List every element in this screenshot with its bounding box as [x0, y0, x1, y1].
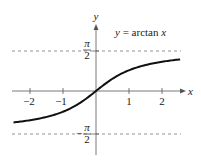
x-tick-label-m2: −2 [23, 95, 35, 107]
svg-text:π: π [84, 121, 90, 133]
x-tick-label-2: 2 [159, 95, 165, 107]
svg-text:2: 2 [84, 49, 90, 61]
x-axis-label: x [187, 85, 193, 97]
svg-text:π: π [84, 37, 90, 49]
y-axis-arrow-icon [94, 24, 99, 30]
y-tick-label-pi-over-2: π 2 [83, 37, 91, 61]
y-axis-label: y [93, 10, 99, 22]
y-tick-label-minus-pi-over-2: − π 2 [76, 121, 91, 145]
equation-label: y = arctan x [114, 26, 166, 38]
x-tick-label-m1: −1 [55, 95, 67, 107]
x-axis-arrow-icon [180, 89, 186, 94]
x-tick-label-1: 1 [126, 95, 132, 107]
svg-text:−: − [76, 127, 82, 139]
arctan-chart: x y −2 −1 1 2 π 2 − π 2 y = arctan x [0, 0, 201, 162]
svg-text:2: 2 [84, 133, 90, 145]
equation-rest: = arctan [120, 26, 161, 38]
